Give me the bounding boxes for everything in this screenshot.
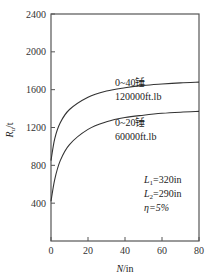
series-label-1-line1: 0~40锤 <box>115 76 145 88</box>
y-tick-label: 2400 <box>26 9 46 20</box>
x-tick-label: 60 <box>157 245 167 256</box>
y-axis-title: Ru/t <box>4 122 17 138</box>
x-tick-label: 40 <box>120 245 130 256</box>
l2-label: L2=290in <box>143 188 181 201</box>
series-label-2-line2: 60000ft.lb <box>115 131 156 142</box>
l1-label: L1=320in <box>143 174 181 187</box>
y-tick-label: 1200 <box>26 122 46 133</box>
series-label-1-line2: 120000ft.lb <box>115 91 161 102</box>
y-tick-label: 2000 <box>26 46 46 57</box>
x-axis-title: N/in <box>115 263 133 274</box>
y-tick-label: 1600 <box>26 84 46 95</box>
x-tick-label: 80 <box>194 245 204 256</box>
x-tick-label: 0 <box>49 245 54 256</box>
chart: 4008001200160020002400 020406080 0~40锤12… <box>0 0 212 280</box>
x-axis-ticks: 020406080 <box>49 237 205 256</box>
y-tick-label: 400 <box>31 198 46 209</box>
series-label-2-line1: 0~20锤 <box>115 116 145 128</box>
x-tick-label: 20 <box>83 245 93 256</box>
y-tick-label: 800 <box>31 160 46 171</box>
eta-label: η=5% <box>144 202 169 213</box>
series-labels: 0~40锤120000ft.lb0~20锤60000ft.lb <box>115 76 161 142</box>
parameter-annotation: L1=320in L2=290in η=5% <box>143 174 181 213</box>
